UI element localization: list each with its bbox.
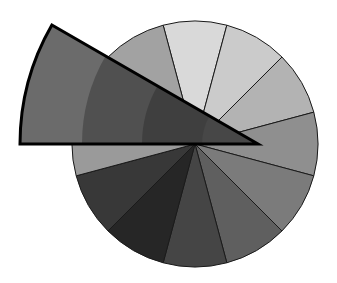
pie-chart [0, 0, 337, 283]
